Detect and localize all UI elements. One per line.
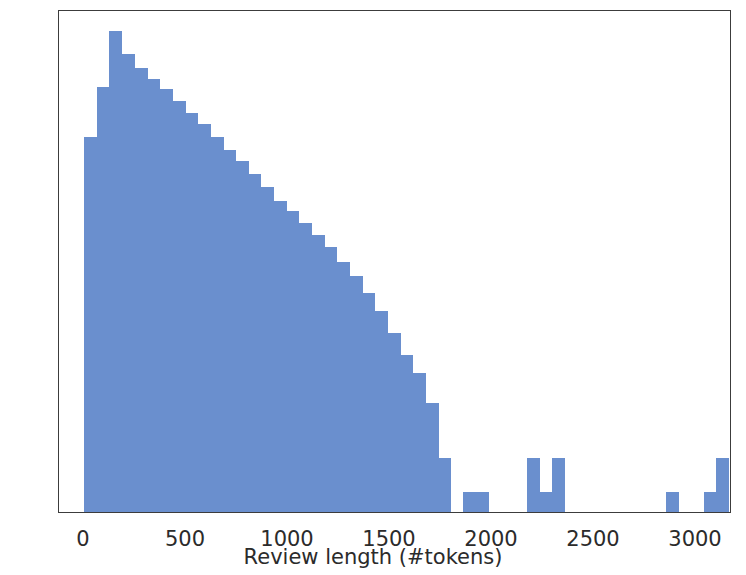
histogram-bar — [527, 458, 540, 512]
histogram-bar — [704, 492, 717, 512]
y-axis-minor-tick — [58, 300, 59, 301]
x-axis-label: Review length (#tokens) — [0, 545, 746, 569]
y-axis-minor-tick — [58, 311, 59, 312]
histogram-bar — [350, 276, 363, 512]
y-axis-minor-tick — [58, 499, 59, 500]
y-axis-tick — [58, 266, 59, 267]
y-axis-tick — [58, 380, 59, 381]
y-axis-minor-tick — [58, 98, 59, 99]
y-axis-minor-tick — [58, 170, 59, 171]
histogram-figure: 100101102103104 050010001500200025003000… — [0, 0, 746, 575]
histogram-bar — [248, 174, 261, 512]
histogram-bar — [716, 458, 729, 512]
y-axis-minor-tick — [58, 118, 59, 119]
y-axis-minor-tick — [58, 277, 59, 278]
y-axis-minor-tick — [58, 157, 59, 158]
histogram-bar — [109, 31, 122, 512]
y-axis-minor-tick — [58, 385, 59, 386]
y-axis-minor-tick — [58, 49, 59, 50]
histogram-bar — [476, 492, 489, 512]
histogram-bar — [337, 262, 350, 512]
y-axis-minor-tick — [58, 197, 59, 198]
y-axis-minor-tick — [58, 391, 59, 392]
y-axis-tick — [58, 152, 59, 153]
histogram-bar — [375, 311, 388, 512]
y-axis-minor-tick — [58, 425, 59, 426]
y-axis-minor-tick — [58, 460, 59, 461]
y-axis-minor-tick — [58, 440, 59, 441]
y-axis-minor-tick — [58, 163, 59, 164]
y-axis-minor-tick — [58, 63, 59, 64]
histogram-bar — [274, 201, 287, 512]
histogram-bar — [299, 223, 312, 512]
y-axis-minor-tick — [58, 56, 59, 57]
y-axis-minor-tick — [58, 512, 59, 513]
histogram-bar — [173, 101, 186, 512]
y-axis-minor-tick — [58, 505, 59, 506]
y-axis-minor-tick — [58, 177, 59, 178]
y-axis-minor-tick — [58, 326, 59, 327]
y-axis-minor-tick — [58, 72, 59, 73]
y-axis-minor-tick — [58, 271, 59, 272]
histogram-bar — [413, 373, 426, 512]
histogram-bar — [400, 355, 413, 512]
y-axis-minor-tick — [58, 232, 59, 233]
histogram-bar — [236, 161, 249, 512]
histogram-bar — [210, 137, 223, 512]
y-axis-minor-tick — [58, 291, 59, 292]
y-axis-minor-tick — [58, 405, 59, 406]
histogram-bar — [426, 403, 439, 512]
histogram-bar — [160, 89, 173, 512]
histogram-bar — [147, 79, 160, 512]
histogram-bar — [438, 458, 451, 512]
y-axis-minor-tick — [58, 212, 59, 213]
y-axis-minor-tick — [58, 346, 59, 347]
histogram-bar — [261, 187, 274, 512]
histogram-bar — [198, 124, 211, 512]
histogram-bar — [97, 87, 110, 512]
y-axis-minor-tick — [58, 83, 59, 84]
histogram-bar — [84, 137, 97, 512]
y-axis-tick — [58, 494, 59, 495]
histogram-bar — [463, 492, 476, 512]
histogram-bar — [223, 150, 236, 512]
y-axis-minor-tick — [58, 414, 59, 415]
y-axis-minor-tick — [58, 43, 59, 44]
histogram-bar — [666, 492, 679, 512]
plot-area — [58, 10, 731, 513]
histogram-bar — [539, 492, 552, 512]
histogram-bar — [362, 293, 375, 512]
histogram-bar — [324, 247, 337, 512]
y-axis-tick — [58, 38, 59, 39]
y-axis-minor-tick — [58, 284, 59, 285]
histogram-bar — [185, 113, 198, 512]
histogram-bar — [122, 54, 135, 512]
histogram-bar — [135, 68, 148, 512]
y-axis-minor-tick — [58, 398, 59, 399]
histogram-bar — [388, 333, 401, 512]
histogram-bar — [286, 211, 299, 512]
y-axis-minor-tick — [58, 186, 59, 187]
histogram-bar — [552, 458, 565, 512]
histogram-bar — [312, 235, 325, 512]
